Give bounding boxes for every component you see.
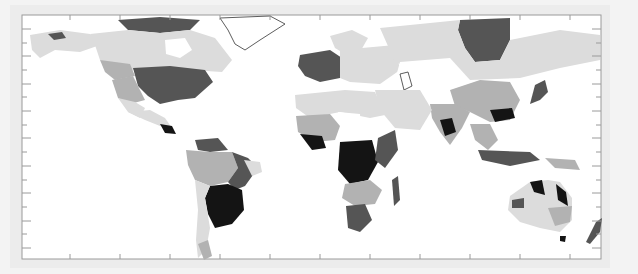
world-choropleth-map [0, 0, 638, 274]
region-tasmania [560, 236, 566, 242]
